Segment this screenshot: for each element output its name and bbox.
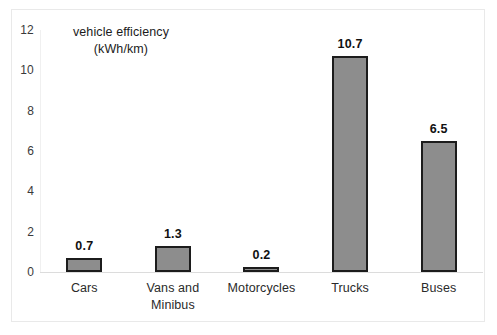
x-category-label: Cars <box>40 280 129 297</box>
bar-group: 1.3 <box>129 30 218 272</box>
bar-group: 6.5 <box>394 30 483 272</box>
y-tick-label: 6 <box>8 144 34 158</box>
plot-area: 0.71.30.210.76.5 <box>40 30 483 272</box>
bar[interactable] <box>66 258 102 272</box>
bar[interactable] <box>421 141 457 272</box>
chart-figure: vehicle efficiency (kWh/km) 024681012 0.… <box>0 0 497 335</box>
x-axis-labels: CarsVans andMinibusMotorcyclesTrucksBuse… <box>40 280 483 326</box>
bar-value-label: 6.5 <box>430 122 448 136</box>
x-axis-baseline <box>40 272 483 273</box>
y-tick-label: 0 <box>8 265 34 279</box>
x-category-label-line: Trucks <box>306 280 395 297</box>
y-tick-label: 2 <box>8 225 34 239</box>
x-category-label: Motorcycles <box>217 280 306 297</box>
y-tick-label: 12 <box>8 23 34 37</box>
bar-value-label: 10.7 <box>338 37 363 51</box>
bar[interactable] <box>332 56 368 272</box>
bar-value-label: 0.7 <box>75 239 93 253</box>
bar-group: 0.2 <box>217 30 306 272</box>
bar[interactable] <box>243 267 279 272</box>
bar[interactable] <box>155 246 191 272</box>
x-category-label-line: Minibus <box>129 297 218 314</box>
x-category-label: Trucks <box>306 280 395 297</box>
x-category-label-line: Vans and <box>129 280 218 297</box>
x-category-label-line: Cars <box>40 280 129 297</box>
y-tick-label: 4 <box>8 184 34 198</box>
bar-group: 0.7 <box>40 30 129 272</box>
x-category-label-line: Motorcycles <box>217 280 306 297</box>
x-category-label: Buses <box>394 280 483 297</box>
y-tick-label: 10 <box>8 63 34 77</box>
x-category-label-line: Buses <box>394 280 483 297</box>
bar-value-label: 1.3 <box>164 227 182 241</box>
bar-value-label: 0.2 <box>252 248 270 262</box>
x-category-label: Vans andMinibus <box>129 280 218 314</box>
y-tick-label: 8 <box>8 104 34 118</box>
bar-group: 10.7 <box>306 30 395 272</box>
